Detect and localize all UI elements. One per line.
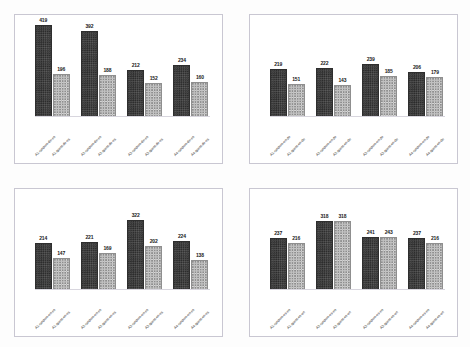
x-tick-labels-2: A1-random-en-esA1-quest-en-esA2-random-e…: [29, 288, 214, 332]
tick-group: A1-random-es-enA1-quest-es-en: [270, 288, 304, 332]
bar-quest[interactable]: [288, 84, 305, 117]
bar-value-label: 241: [367, 229, 375, 236]
bar-quest[interactable]: [145, 246, 162, 290]
x-tick: A4-random-de-es: [174, 115, 191, 159]
bar-random[interactable]: [362, 64, 379, 116]
bar-random[interactable]: [81, 242, 98, 290]
bar-random[interactable]: [316, 68, 333, 116]
x-tick: A2-random-de-es: [81, 115, 98, 159]
x-tick: A3-quest-en-de: [380, 115, 397, 159]
bar-quest[interactable]: [191, 260, 208, 290]
bar-quest[interactable]: [53, 74, 70, 117]
bar-quest[interactable]: [334, 221, 351, 290]
bar-random[interactable]: [270, 69, 287, 117]
bar-random[interactable]: [316, 221, 333, 290]
bar-random[interactable]: [408, 238, 425, 290]
x-tick-label: A1-quest-en-es: [51, 310, 71, 330]
bar-value-label: 179: [431, 69, 439, 76]
panel-cell-top-right: 219151222143239185206179 A1-random-en-de…: [235, 0, 470, 174]
bar-slot: 221: [81, 234, 98, 290]
x-tick: A1-random-de-es: [35, 115, 52, 159]
bar-value-label: 185: [385, 68, 393, 75]
bar-random[interactable]: [270, 238, 287, 290]
x-tick: A3-random-en-es: [128, 288, 145, 332]
x-tick: A3-random-de-es: [128, 115, 145, 159]
bar-slot: 239: [362, 56, 379, 116]
bar-chart-figure: 419196392188212152234160 A1-random-de-es…: [0, 0, 470, 347]
bar-random[interactable]: [362, 237, 379, 290]
tick-group: A4-random-en-esA4-quest-en-es: [174, 288, 208, 332]
bar-quest[interactable]: [53, 258, 70, 290]
tick-group: A4-random-en-deA4-quest-en-de: [409, 115, 443, 159]
x-tick: A3-random-es-en: [363, 288, 380, 332]
x-tick: A4-quest-en-es: [191, 288, 208, 332]
bar-quest[interactable]: [334, 85, 351, 116]
bar-value-label: 188: [104, 67, 112, 74]
bar-slot: 214: [35, 235, 52, 290]
panel-cell-bottom-right: 237216318318241243237216 A1-random-es-en…: [235, 174, 470, 347]
bar-random[interactable]: [173, 65, 190, 116]
bar-value-label: 239: [367, 56, 375, 63]
x-tick-label: A2-quest-en-es: [98, 310, 118, 330]
x-tick: A1-random-en-es: [35, 288, 52, 332]
bar-group: 219151: [270, 61, 305, 117]
x-tick: A2-quest-de-es: [98, 115, 115, 159]
bar-quest[interactable]: [426, 243, 443, 290]
bar-group: 237216: [270, 230, 305, 290]
tick-group: A2-random-de-esA2-quest-de-es: [81, 115, 115, 159]
bar-value-label: 219: [274, 61, 282, 68]
bar-value-label: 214: [39, 235, 47, 242]
x-tick: A3-quest-es-en: [380, 288, 397, 332]
x-tick-label: A4-quest-es-en: [425, 310, 445, 330]
bar-quest[interactable]: [426, 77, 443, 116]
bar-random[interactable]: [127, 70, 144, 116]
tick-group: A4-random-de-esA4-quest-de-es: [174, 115, 208, 159]
bar-group: 212152: [127, 62, 162, 116]
bar-value-label: 392: [86, 23, 94, 30]
x-tick: A4-quest-de-es: [191, 115, 208, 159]
bar-quest[interactable]: [99, 253, 116, 290]
bar-slot: 216: [426, 235, 443, 290]
bar-quest[interactable]: [191, 82, 208, 117]
tick-group: A3-random-en-esA3-quest-en-es: [128, 288, 162, 332]
bar-random[interactable]: [35, 25, 52, 116]
bar-slot: 169: [99, 245, 116, 290]
bar-slot: 185: [380, 68, 397, 116]
tick-group: A3-random-en-deA3-quest-en-de: [363, 115, 397, 159]
tick-group: A2-random-en-esA2-quest-en-es: [81, 288, 115, 332]
bar-value-label: 216: [292, 235, 300, 242]
bar-quest[interactable]: [99, 75, 116, 116]
bar-group: 392188: [81, 23, 116, 117]
bar-random[interactable]: [408, 72, 425, 117]
bar-random[interactable]: [173, 241, 190, 290]
bar-value-label: 318: [339, 213, 347, 220]
bar-random[interactable]: [35, 243, 52, 290]
plot-area-3: 237216318318241243237216: [264, 197, 449, 291]
x-tick: A4-random-es-en: [409, 288, 426, 332]
bar-random[interactable]: [127, 220, 144, 290]
bar-value-label: 143: [339, 77, 347, 84]
bar-quest[interactable]: [380, 76, 397, 116]
bar-quest[interactable]: [380, 237, 397, 290]
x-tick: A3-random-en-de: [363, 115, 380, 159]
x-tick: A4-quest-en-de: [426, 115, 443, 159]
bar-quest[interactable]: [288, 243, 305, 290]
bar-groups-1: 219151222143239185206179: [264, 23, 449, 117]
chart-panel-0: 419196392188212152234160 A1-random-de-es…: [14, 14, 223, 164]
bar-slot: 318: [316, 213, 333, 290]
x-tick: A1-quest-en-de: [287, 115, 304, 159]
x-tick: A1-quest-en-es: [52, 288, 69, 332]
bar-value-label: 152: [150, 75, 158, 82]
x-tick: A2-random-en-de: [316, 115, 333, 159]
x-tick: A4-random-en-es: [174, 288, 191, 332]
bar-quest[interactable]: [145, 83, 162, 116]
tick-group: A3-random-es-enA3-quest-es-en: [363, 288, 397, 332]
chart-panel-2: 214147221169322202224138 A1-random-en-es…: [14, 188, 223, 338]
bar-groups-3: 237216318318241243237216: [264, 197, 449, 291]
bar-slot: 241: [362, 229, 379, 290]
panel-cell-top-left: 419196392188212152234160 A1-random-de-es…: [0, 0, 235, 174]
bar-group: 234160: [173, 57, 208, 116]
x-tick-label: A1-quest-es-en: [286, 310, 306, 330]
bar-random[interactable]: [81, 31, 98, 117]
tick-group: A3-random-de-esA3-quest-de-es: [128, 115, 162, 159]
